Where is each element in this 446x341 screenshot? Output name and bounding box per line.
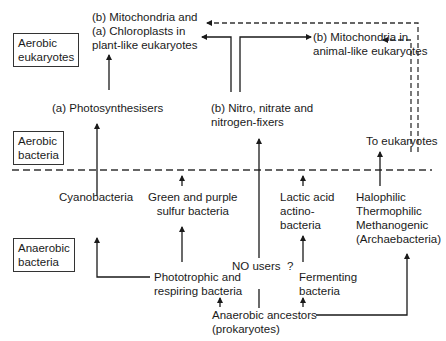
node-phototrophic: Phototrophic and respiring bacteria — [154, 270, 242, 298]
zone-label-anaerobic-bacteria: Anaerobic bacteria — [13, 238, 75, 272]
node-to-eukaryotes: To eukaryotes — [366, 134, 438, 148]
node-cyanobacteria: Cyanobacteria — [59, 190, 133, 204]
zone-label-aerobic-bacteria: Aerobic bacteria — [13, 131, 64, 165]
node-mitochondria-animal: (b) Mitochondria in animal-like eukaryot… — [313, 30, 427, 58]
node-green-purple-sulfur: Green and purple sulfur bacteria — [148, 190, 238, 218]
node-nitrogen-fixers: (b) Nitro, nitrate and nitrogen-fixers — [211, 101, 313, 129]
node-photosynthesisers: (a) Photosynthesisers — [52, 101, 163, 115]
node-archaebacteria: Halophilic Thermophilic Methanogenic (Ar… — [356, 190, 441, 246]
node-fermenting: Fermenting bacteria — [299, 270, 357, 298]
node-lactic-acid: Lactic acid actino- bacteria — [280, 190, 334, 232]
node-anaerobic-ancestors: Anaerobic ancestors (prokaryotes) — [212, 308, 317, 336]
zone-label-aerobic-eukaryotes: Aerobic eukaryotes — [13, 33, 79, 67]
node-mitochondria-chloroplasts-plant: (b) Mitochondria and (a) Chloroplasts in… — [92, 10, 197, 52]
